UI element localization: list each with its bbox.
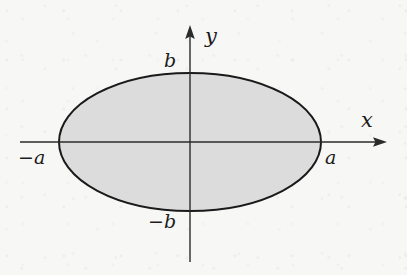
y-axis-label: y bbox=[205, 26, 217, 47]
x-axis-label: x bbox=[361, 110, 373, 131]
vertex-label-minus-a: −a bbox=[18, 148, 45, 167]
vertex-label-minus-b: −b bbox=[148, 212, 176, 231]
ellipse-figure: x y a −a b −b bbox=[0, 0, 407, 275]
coordinate-plot bbox=[0, 0, 407, 275]
vertex-label-b: b bbox=[164, 51, 176, 70]
vertex-label-a: a bbox=[325, 148, 336, 167]
